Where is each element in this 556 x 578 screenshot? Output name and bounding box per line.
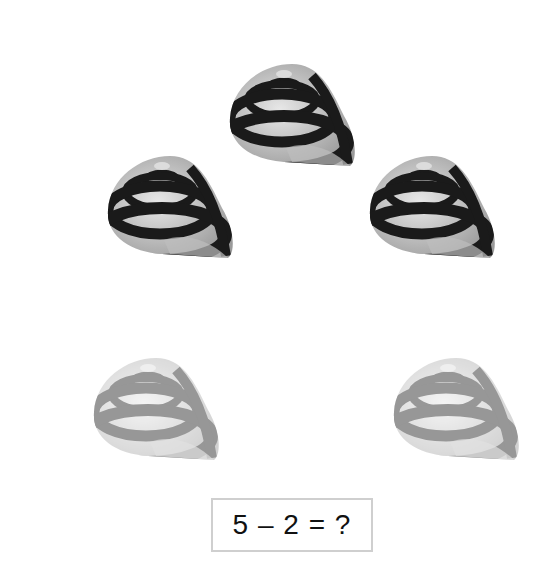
snail-shell-icon bbox=[86, 350, 226, 465]
snail-shell-3 bbox=[362, 148, 502, 263]
equation-text: 5 – 2 = ? bbox=[233, 509, 352, 541]
snail-shell-icon bbox=[222, 56, 362, 171]
snail-shell-icon bbox=[100, 148, 240, 263]
snail-shell-icon bbox=[386, 350, 526, 465]
snail-shell-4-removed bbox=[86, 350, 226, 465]
snail-shell-2 bbox=[100, 148, 240, 263]
snail-shell-icon bbox=[362, 148, 502, 263]
equation-box: 5 – 2 = ? bbox=[211, 498, 373, 552]
snail-shell-5-removed bbox=[386, 350, 526, 465]
snail-shell-1 bbox=[222, 56, 362, 171]
